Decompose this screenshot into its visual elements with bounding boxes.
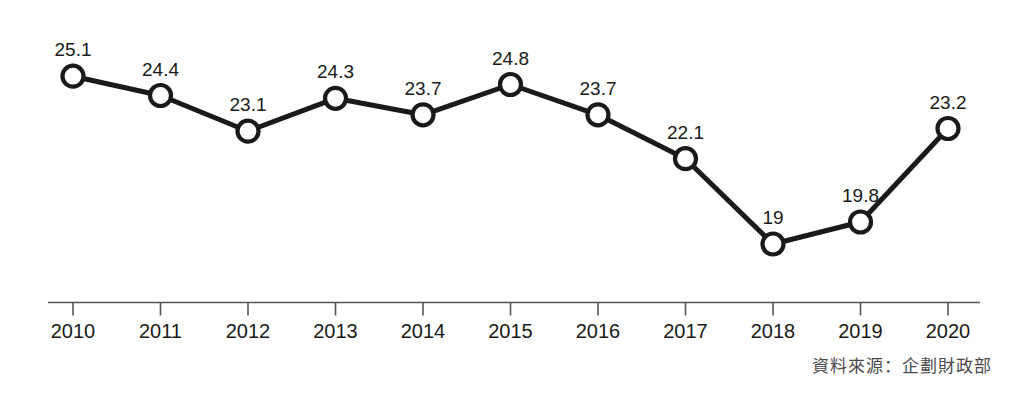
x-tick-label-2010: 2010 [51, 320, 96, 342]
data-point-2011 [150, 85, 171, 106]
chart-canvas: 25.124.423.124.323.724.823.722.11919.823… [0, 0, 1030, 395]
data-point-2017 [675, 148, 696, 169]
x-tick-label-2013: 2013 [313, 320, 358, 342]
data-point-2016 [588, 104, 609, 125]
x-tick-label-2015: 2015 [488, 320, 533, 342]
x-tick-label-2011: 2011 [139, 320, 182, 342]
data-point-2014 [413, 104, 434, 125]
source-note: 資料來源：企劃財政部 [812, 352, 992, 377]
data-point-2012 [238, 121, 259, 142]
data-point-2015 [500, 74, 521, 95]
data-point-2019 [850, 212, 871, 233]
x-tick-label-2012: 2012 [226, 320, 271, 342]
series-markers [63, 66, 959, 255]
data-label-2016: 23.7 [580, 78, 617, 99]
data-label-2012: 23.1 [230, 94, 267, 115]
data-point-2013 [325, 88, 346, 109]
data-point-2020 [938, 118, 959, 139]
data-label-2015: 24.8 [492, 48, 529, 69]
x-tick-labels: 2010201120122013201420152016201720182019… [51, 320, 971, 342]
series-line [73, 76, 948, 244]
x-tick-label-2020: 2020 [926, 320, 971, 342]
x-tick-label-2016: 2016 [576, 320, 621, 342]
data-point-2010 [63, 66, 84, 87]
data-label-2013: 24.3 [317, 61, 354, 82]
data-label-2014: 23.7 [405, 78, 442, 99]
data-point-2018 [763, 234, 784, 255]
x-tick-label-2014: 2014 [401, 320, 446, 342]
value-labels: 25.124.423.124.323.724.823.722.11919.823… [55, 39, 967, 228]
line-chart: 25.124.423.124.323.724.823.722.11919.823… [0, 0, 1030, 395]
x-axis-ticks [73, 303, 948, 316]
x-tick-label-2019: 2019 [838, 320, 883, 342]
x-tick-label-2018: 2018 [751, 320, 796, 342]
data-label-2010: 25.1 [55, 39, 92, 60]
data-label-2019: 19.8 [842, 185, 879, 206]
data-label-2017: 22.1 [667, 122, 704, 143]
data-label-2011: 24.4 [142, 59, 179, 80]
x-tick-label-2017: 2017 [663, 320, 708, 342]
data-label-2020: 23.2 [930, 92, 967, 113]
data-label-2018: 19 [762, 207, 783, 228]
